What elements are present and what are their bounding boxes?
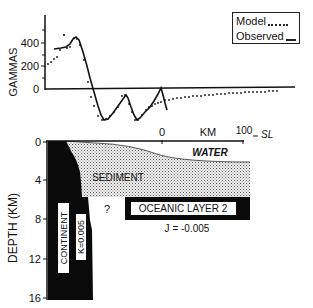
depth-axis-label: DEPTH (KM) [6, 193, 20, 263]
sea-level-label: SL [261, 129, 273, 140]
figure-canvas: 400 200 0 GAMMAS 0 KM 100 SL OCEANIC LAY… [0, 0, 313, 308]
depth-tick-8: 8 [35, 213, 41, 225]
legend-model-label: Model [236, 14, 266, 29]
scale-unit-label: KM [200, 126, 217, 138]
ytick-400: 400 [21, 37, 39, 49]
sediment-label: SEDIMENT [92, 172, 144, 183]
legend-observed-label: Observed [236, 29, 284, 44]
ytick-0: 0 [33, 83, 39, 95]
dotted-line-icon [268, 18, 288, 26]
ytick-200: 200 [21, 60, 39, 72]
scale-end-label: 100 [236, 125, 253, 136]
cross-section: OCEANIC LAYER 2 J = -0.005 0 4 8 12 16 D… [6, 136, 250, 304]
continent-label: CONTINENT [59, 211, 69, 264]
zero-baseline [45, 87, 295, 89]
solid-line-icon [286, 33, 296, 41]
depth-tick-0: 0 [35, 136, 41, 148]
depth-tick-12: 12 [29, 253, 41, 265]
water-label: WATER [192, 147, 228, 158]
depth-tick-16: 16 [29, 292, 41, 304]
unknown-question-mark: ? [104, 203, 110, 215]
oceanic-susceptibility-label: J = -0.005 [165, 223, 210, 234]
continent-susceptibility-label: K=0.005 [76, 220, 86, 254]
gammas-axis-label: GAMMAS [7, 48, 19, 97]
scale-zero-label: 0 [159, 126, 165, 138]
legend-box: Model Observed [232, 12, 300, 44]
legend-observed: Observed [236, 29, 299, 44]
depth-tick-4: 4 [35, 174, 41, 186]
oceanic-layer-label: OCEANIC LAYER 2 [139, 203, 228, 214]
legend-model: Model [236, 14, 299, 29]
observed-curve [54, 37, 167, 120]
